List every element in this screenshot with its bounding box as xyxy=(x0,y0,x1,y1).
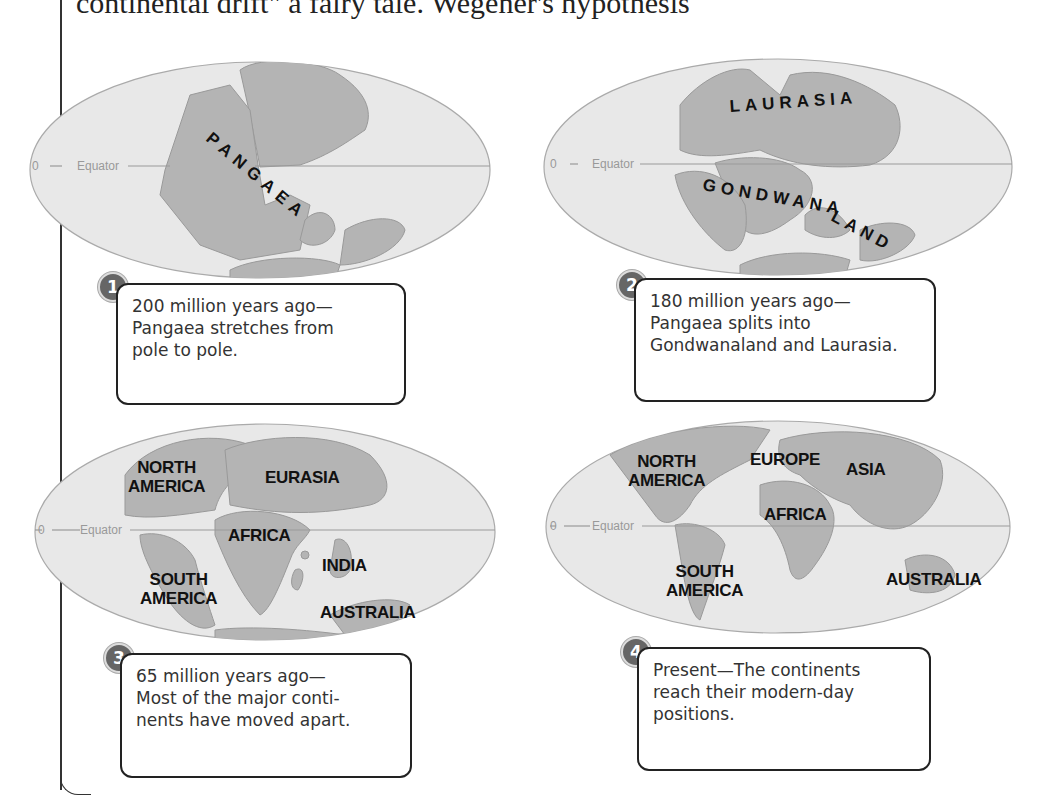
label-africa: AFRICA xyxy=(228,526,290,545)
label-india: INDIA xyxy=(322,556,367,575)
margin-rule-curve xyxy=(60,770,91,795)
svg-text:Equator: Equator xyxy=(592,519,634,533)
svg-text:0: 0 xyxy=(550,519,557,533)
svg-text:Equator: Equator xyxy=(592,157,634,171)
label-south-america-present: SOUTHAMERICA xyxy=(666,562,743,600)
header-text-fragment: continental drift" a fairy tale. Wegener… xyxy=(76,0,690,20)
label-australia: AUSTRALIA xyxy=(320,603,416,622)
caption-4: Present—The continents reach their moder… xyxy=(637,647,931,771)
svg-text:Equator: Equator xyxy=(77,159,119,173)
label-north-america: NORTHAMERICA xyxy=(128,458,205,496)
svg-text:Equator: Equator xyxy=(80,523,122,537)
svg-text:0: 0 xyxy=(38,523,45,537)
svg-text:0: 0 xyxy=(550,157,557,171)
caption-1: 200 million years ago— Pangaea stretches… xyxy=(116,283,406,405)
label-europe: EUROPE xyxy=(750,450,820,469)
map-pangaea: 0 Equator PANGAEA xyxy=(0,55,500,285)
label-australia-present: AUSTRALIA xyxy=(886,570,982,589)
label-eurasia: EURASIA xyxy=(265,468,339,487)
label-asia: ASIA xyxy=(846,460,885,479)
svg-text:0: 0 xyxy=(32,159,39,173)
caption-3: 65 million years ago— Most of the major … xyxy=(120,653,412,778)
label-north-america-present: NORTHAMERICA xyxy=(628,452,705,490)
label-africa-present: AFRICA xyxy=(764,505,826,524)
label-south-america: SOUTHAMERICA xyxy=(140,570,217,608)
caption-2: 180 million years ago— Pangaea splits in… xyxy=(634,278,936,402)
map-laurasia-gondwanaland: 0 Equator LAURASIA GONDWANA LAND xyxy=(530,55,1030,285)
